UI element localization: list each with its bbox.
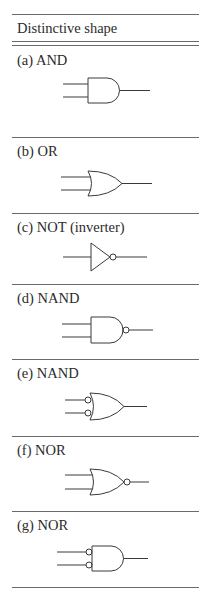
nand-gate-icon xyxy=(62,317,153,343)
gate-symbols xyxy=(0,0,209,598)
not-gate-icon xyxy=(63,243,147,271)
and-gate-icon xyxy=(63,78,150,103)
nor-gate-icon xyxy=(65,469,149,495)
or-gate-inverted-inputs-icon xyxy=(65,393,147,420)
and-gate-inverted-inputs-icon xyxy=(57,546,148,571)
or-gate-icon xyxy=(61,171,152,196)
